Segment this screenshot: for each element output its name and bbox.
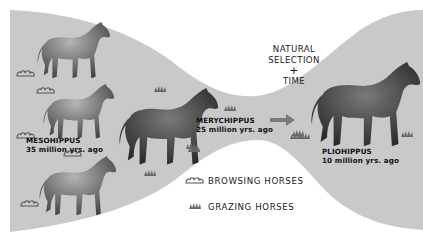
evolution-diagram: NATURAL SELECTION + TIME MESOHIPPUS 35 m… — [0, 0, 423, 242]
species-name: PLIOHIPPUS — [322, 147, 399, 156]
legend-label: GRAZING HORSES — [208, 202, 294, 212]
legend-grazing-icon — [189, 203, 201, 209]
species-age: 25 million yrs. ago — [196, 125, 273, 134]
species-age: 35 million yrs. ago — [26, 145, 103, 154]
species-label-mesohippus: MESOHIPPUS 35 million yrs. ago — [26, 136, 103, 154]
species-label-pliohippus: PLIOHIPPUS 10 million yrs. ago — [322, 147, 399, 165]
species-age: 10 million yrs. ago — [322, 156, 399, 165]
legend-label: BROWSING HORSES — [208, 176, 303, 186]
title-line: NATURAL — [258, 44, 330, 55]
title-line: + — [258, 66, 330, 76]
legend-item-browsing: BROWSING HORSES — [208, 176, 303, 186]
legend-browsing-icon — [186, 178, 203, 183]
species-label-merychippus: MERYCHIPPUS 25 million yrs. ago — [196, 116, 273, 134]
species-name: MERYCHIPPUS — [196, 116, 273, 125]
legend-item-grazing: GRAZING HORSES — [208, 202, 294, 212]
title-line: TIME — [258, 76, 330, 87]
diagram-title: NATURAL SELECTION + TIME — [258, 44, 330, 87]
species-name: MESOHIPPUS — [26, 136, 103, 145]
